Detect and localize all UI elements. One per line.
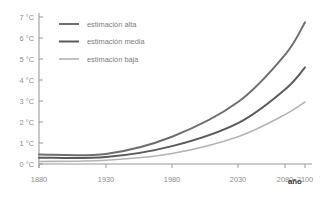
x-axis-title: año xyxy=(288,177,302,186)
legend-label-0: estimación alta xyxy=(87,20,137,29)
y-axis-tick-labels: 0 °C1 °C2 °C3 °C4 °C5 °C6 °C7 °C xyxy=(20,13,35,169)
y-tick-label-3: 3 °C xyxy=(20,97,35,106)
chart-canvas: 0 °C1 °C2 °C3 °C4 °C5 °C6 °C7 °C 1880193… xyxy=(0,0,323,199)
x-tick-label-1880: 1880 xyxy=(31,175,47,184)
x-axis: 188019301980203020802100 año xyxy=(31,164,313,186)
y-tick-label-5: 5 °C xyxy=(20,55,35,64)
y-tick-label-4: 4 °C xyxy=(20,76,35,85)
x-tick-label-2030: 2030 xyxy=(230,175,246,184)
y-tick-label-7: 7 °C xyxy=(20,13,35,22)
x-tick-label-1930: 1930 xyxy=(98,175,114,184)
y-axis-ticks xyxy=(39,17,43,164)
y-tick-label-1: 1 °C xyxy=(20,139,35,148)
series-line-estimación-media xyxy=(39,67,305,158)
y-axis: 0 °C1 °C2 °C3 °C4 °C5 °C6 °C7 °C xyxy=(20,13,43,169)
y-tick-label-6: 6 °C xyxy=(20,34,35,43)
y-tick-label-0: 0 °C xyxy=(20,160,35,169)
x-tick-label-1980: 1980 xyxy=(164,175,180,184)
data-series-group xyxy=(39,22,305,161)
x-axis-ticks xyxy=(39,164,305,168)
temperature-projection-chart: 0 °C1 °C2 °C3 °C4 °C5 °C6 °C7 °C 1880193… xyxy=(0,0,323,199)
legend-label-1: estimación media xyxy=(87,37,145,46)
chart-legend: estimación altaestimación mediaestimació… xyxy=(59,20,145,64)
x-axis-tick-labels: 188019301980203020802100 xyxy=(31,175,313,184)
series-line-estimación-baja xyxy=(39,102,305,161)
y-tick-label-2: 2 °C xyxy=(20,118,35,127)
legend-label-2: estimación baja xyxy=(87,55,139,64)
